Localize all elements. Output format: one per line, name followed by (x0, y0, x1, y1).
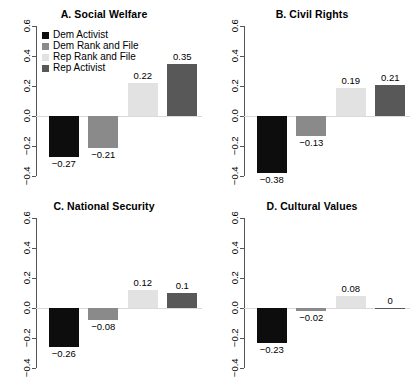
legend-item-1: Dem Activist (42, 30, 139, 41)
bar-c-1 (49, 308, 79, 347)
legend-swatch-icon (42, 54, 49, 61)
bar-c-3 (128, 290, 158, 308)
bar-value-label-b-4: 0.21 (368, 73, 412, 83)
panel-d-cultural-values: D. Cultural Values 0.60.40.20.0−0.2−0.4 … (208, 192, 416, 384)
panel-c-bars: −0.26−0.080.120.1 (36, 218, 202, 368)
legend-item-label: Dem Rank and File (53, 41, 139, 51)
y-tick-mark (32, 368, 36, 369)
bar-c-4 (167, 293, 197, 308)
legend-item-3: Rep Rank and File (42, 52, 139, 63)
bar-c-2 (88, 308, 118, 320)
bar-value-label-b-2: −0.13 (289, 138, 333, 148)
bar-value-label-d-3: 0.08 (329, 284, 373, 294)
panel-a-social-welfare: A. Social Welfare 0.60.40.20.0−0.2−0.4 −… (0, 0, 208, 192)
panel-b-civil-rights: B. Civil Rights 0.60.40.20.0−0.2−0.4 −0.… (208, 0, 416, 192)
panel-c-national-security: C. National Security 0.60.40.20.0−0.2−0.… (0, 192, 208, 384)
legend-item-label: Rep Activist (53, 63, 105, 73)
bar-b-4 (375, 85, 405, 117)
bar-d-3 (336, 296, 366, 308)
legend-swatch-icon (42, 43, 49, 50)
bar-value-label-b-1: −0.38 (250, 175, 294, 185)
bar-a-1 (49, 116, 79, 157)
bar-d-2 (296, 308, 326, 311)
bar-value-label-b-3: 0.19 (329, 76, 373, 86)
legend-swatch-icon (42, 32, 49, 39)
legend-item-4: Rep Activist (42, 63, 139, 74)
panel-b-bars: −0.38−0.130.190.21 (244, 26, 410, 176)
panel-b-plot-area: 0.60.40.20.0−0.2−0.4 −0.38−0.130.190.21 (244, 26, 410, 176)
bar-d-4 (375, 308, 405, 309)
legend-item-label: Rep Rank and File (53, 52, 136, 62)
bar-a-4 (167, 64, 197, 117)
panel-d-plot-area: 0.60.40.20.0−0.2−0.4 −0.23−0.020.080 (244, 218, 410, 368)
y-tick-mark (32, 176, 36, 177)
bar-value-label-c-3: 0.12 (121, 278, 165, 288)
bar-value-label-c-4: 0.1 (160, 281, 204, 291)
bar-b-2 (296, 116, 326, 136)
bar-value-label-d-2: −0.02 (289, 313, 333, 323)
panel-c-plot-area: 0.60.40.20.0−0.2−0.4 −0.26−0.080.120.1 (36, 218, 202, 368)
legend: Dem ActivistDem Rank and FileRep Rank an… (42, 30, 139, 74)
bar-a-2 (88, 116, 118, 148)
figure-canvas: A. Social Welfare 0.60.40.20.0−0.2−0.4 −… (0, 0, 416, 385)
bar-value-label-d-4: 0 (368, 296, 412, 306)
bar-value-label-a-1: −0.27 (42, 159, 86, 169)
bar-value-label-a-2: −0.21 (81, 150, 125, 160)
bar-a-3 (128, 83, 158, 116)
bar-value-label-c-2: −0.08 (81, 322, 125, 332)
y-tick-mark (240, 368, 244, 369)
bar-value-label-a-4: 0.35 (160, 52, 204, 62)
bar-value-label-c-1: −0.26 (42, 349, 86, 359)
bar-value-label-d-1: −0.23 (250, 345, 294, 355)
bar-d-1 (257, 308, 287, 343)
bar-b-1 (257, 116, 287, 173)
panel-d-bars: −0.23−0.020.080 (244, 218, 410, 368)
legend-item-2: Dem Rank and File (42, 41, 139, 52)
legend-item-label: Dem Activist (53, 30, 108, 40)
legend-swatch-icon (42, 65, 49, 72)
y-tick-mark (240, 176, 244, 177)
bar-b-3 (336, 88, 366, 117)
